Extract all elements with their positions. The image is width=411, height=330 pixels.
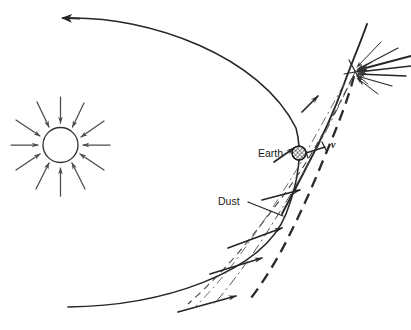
dust-flow-arrow-group	[178, 96, 318, 312]
dust-axis-dash-dot-path	[214, 70, 356, 304]
dust-label: Dust	[218, 195, 240, 207]
dust-flow-arrow-icon	[228, 228, 282, 248]
sun-circle	[43, 128, 78, 163]
sun-ray-icon	[81, 121, 104, 137]
dust-stream-thick-dashed	[248, 76, 354, 302]
sun-ray-icon	[36, 163, 49, 189]
dust-flow-arrow-icon	[210, 258, 262, 274]
dust-source-convergence	[344, 42, 411, 94]
dust-stream-thin-dashed-path	[188, 78, 352, 304]
sun-ray-icon	[16, 154, 40, 170]
velocity-vector-group	[305, 142, 327, 158]
earth-group	[292, 146, 306, 160]
earth-orbit-solid	[67, 18, 299, 307]
convergence-ray-icon	[358, 66, 411, 72]
earth-label: Earth	[258, 147, 283, 159]
dust-flow-arrow-icon	[178, 296, 236, 312]
orbit-direction-arrow-icon	[62, 18, 80, 19]
dust-stream-thin-dashed	[188, 78, 352, 304]
trajectory-diagram-svg: Earth Dust v	[0, 0, 411, 330]
dust-stream-thick-dashed-path	[248, 76, 354, 302]
sun-ray-icon	[16, 120, 40, 136]
velocity-label: v	[331, 139, 336, 150]
dust-leader-line	[248, 202, 283, 216]
convergence-ray-icon	[358, 74, 406, 76]
earth-orbit-group	[62, 18, 299, 307]
sun-group	[11, 97, 110, 196]
sun-ray-icon	[73, 103, 85, 127]
dust-flow-arrow-icon	[262, 190, 300, 200]
sun-ray-icon	[37, 102, 49, 127]
dust-flow-arrow-icon	[302, 96, 318, 112]
sun-ray-icon	[72, 163, 85, 189]
convergence-ray-icon	[358, 48, 398, 69]
dust-leader-group	[248, 202, 283, 216]
sun-ray-icon	[80, 154, 104, 170]
diagram-canvas: Earth Dust v	[0, 0, 411, 330]
